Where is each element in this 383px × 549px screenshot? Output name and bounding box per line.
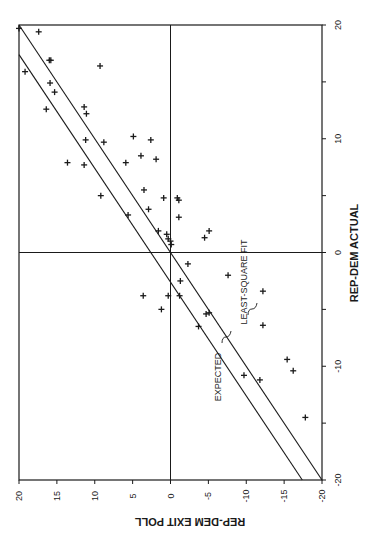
x-tick-label: -20 bbox=[317, 489, 327, 502]
plus-marker bbox=[284, 356, 290, 362]
plus-marker bbox=[153, 156, 159, 162]
plus-marker bbox=[81, 162, 87, 168]
plus-marker bbox=[176, 214, 182, 220]
plus-marker bbox=[241, 372, 247, 378]
plus-marker bbox=[101, 139, 107, 145]
plus-marker bbox=[83, 111, 89, 117]
scatter-chart: 20151050-5-10-15-2020100-10-20 REP-DEM A… bbox=[0, 0, 383, 549]
plus-marker bbox=[206, 228, 212, 234]
plus-marker bbox=[196, 323, 202, 329]
plus-marker bbox=[141, 187, 147, 193]
plus-marker bbox=[52, 89, 58, 95]
plus-marker bbox=[302, 414, 308, 420]
plus-marker bbox=[83, 137, 89, 143]
plus-marker bbox=[81, 104, 87, 110]
plus-marker bbox=[290, 368, 296, 374]
x-tick-label: 0 bbox=[166, 493, 176, 498]
plus-marker bbox=[130, 133, 136, 139]
y-tick-label: -20 bbox=[333, 473, 343, 486]
lsf-leader bbox=[248, 303, 257, 315]
plus-marker bbox=[161, 195, 167, 201]
plus-marker bbox=[177, 293, 183, 299]
expected-line-label: EXPECTED bbox=[213, 352, 223, 401]
y-tick-label: 20 bbox=[333, 20, 343, 30]
plus-marker bbox=[97, 63, 103, 69]
plus-marker bbox=[123, 160, 129, 166]
plus-marker bbox=[203, 311, 209, 317]
y-axis-title: REP-DEM ACTUAL bbox=[348, 203, 360, 302]
x-tick-label: 20 bbox=[14, 491, 24, 501]
y-tick-label: 0 bbox=[333, 250, 343, 255]
plus-marker bbox=[36, 29, 42, 35]
plus-marker bbox=[148, 137, 154, 143]
plus-marker bbox=[202, 235, 208, 241]
plus-marker bbox=[177, 278, 183, 284]
plus-marker bbox=[257, 377, 263, 383]
plus-marker bbox=[125, 212, 131, 218]
x-tick-label: 15 bbox=[52, 491, 62, 501]
x-axis-title: REP-DEM EXIT POLL bbox=[134, 516, 245, 528]
plus-marker bbox=[155, 228, 161, 234]
x-tick-label: 10 bbox=[90, 491, 100, 501]
y-tick-label: 10 bbox=[333, 134, 343, 144]
plus-marker bbox=[146, 206, 152, 212]
least-square-fit-line bbox=[19, 55, 302, 480]
x-tick-label: -5 bbox=[203, 492, 213, 500]
plus-marker bbox=[98, 193, 104, 199]
plus-marker bbox=[185, 261, 191, 267]
x-tick-label: 5 bbox=[128, 493, 138, 498]
plus-marker bbox=[140, 293, 146, 299]
x-tick-label: -10 bbox=[241, 489, 251, 502]
plus-marker bbox=[158, 306, 164, 312]
plus-marker bbox=[43, 106, 49, 112]
least-square-fit-label: LEAST-SQUARE FIT bbox=[239, 239, 249, 325]
plus-marker bbox=[260, 288, 266, 294]
x-tick-label: -15 bbox=[279, 489, 289, 502]
plus-marker bbox=[16, 25, 22, 31]
y-tick-label: -10 bbox=[333, 360, 343, 373]
plus-marker bbox=[260, 322, 266, 328]
data-points bbox=[16, 25, 308, 420]
plus-marker bbox=[168, 242, 174, 248]
plus-marker bbox=[47, 80, 53, 86]
plus-marker bbox=[138, 153, 144, 159]
plus-marker bbox=[22, 69, 28, 75]
plus-marker bbox=[225, 272, 231, 278]
plus-marker bbox=[206, 310, 212, 316]
plus-marker bbox=[64, 160, 70, 166]
